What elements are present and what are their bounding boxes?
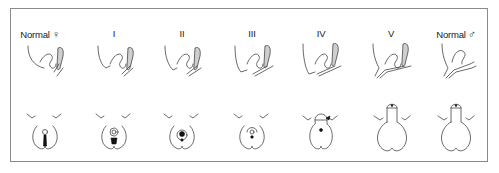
sagittal-stage-ii (165, 46, 201, 76)
sagittal-normal-male (442, 44, 476, 78)
external-normal-male (438, 104, 474, 151)
sagittal-stage-iv (303, 43, 341, 76)
external-stage-ii (164, 114, 198, 149)
external-normal-female (27, 114, 61, 149)
sagittal-stage-i (98, 46, 133, 76)
external-stage-i (96, 114, 130, 149)
external-stage-iv (303, 114, 337, 149)
diagram-drawings (0, 0, 499, 173)
external-stage-iii (234, 114, 268, 149)
external-stage-v (374, 104, 410, 151)
sagittal-normal-female (28, 46, 63, 76)
sagittal-stage-v (373, 43, 411, 78)
sagittal-stage-iii (235, 45, 273, 76)
